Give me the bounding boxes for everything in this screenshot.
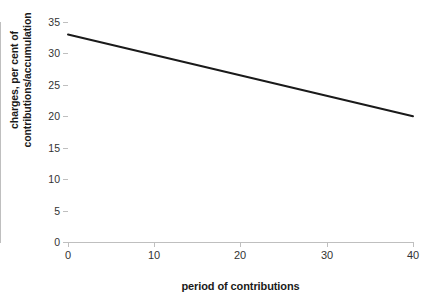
series-layer [0,0,430,304]
line-chart: charges, per cent of contributions/accum… [0,0,430,304]
series-line-charges [68,35,413,117]
